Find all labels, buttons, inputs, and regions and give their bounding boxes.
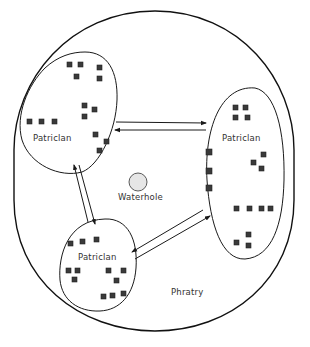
exchange-arrow-bottom-to-right (135, 216, 210, 259)
patriclan-top-left-label: Patriclan (33, 133, 72, 143)
waterhole (129, 173, 147, 191)
phratry-diagram (0, 0, 310, 347)
patriclan-bottom-boundary (60, 219, 136, 311)
phratry-label: Phratry (171, 287, 203, 297)
patriclan-bottom-label: Patriclan (78, 252, 117, 262)
patriclan-top-left-boundary (20, 52, 117, 173)
patriclan-right-boundary (207, 88, 284, 259)
exchange-arrow-left-to-right (116, 122, 206, 123)
exchange-arrow-right-to-bottom (132, 210, 203, 252)
patriclan-bottom-members (66, 237, 126, 299)
patriclan-right-members (206, 105, 273, 248)
waterhole-label: Waterhole (118, 192, 163, 202)
patriclan-right-label: Patriclan (222, 133, 261, 143)
